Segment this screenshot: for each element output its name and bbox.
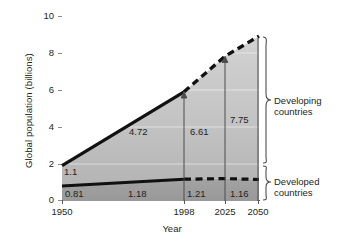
label-developed-2025: 1.21	[187, 188, 206, 199]
x-tick-2025	[225, 200, 226, 204]
label-developing-2050: 7.75	[230, 114, 249, 125]
label-developed-1998: 1.18	[128, 188, 147, 199]
plot-area: 1.1 0.81 4.72 1.18 6.61 1.21 7.75 1.16	[62, 16, 259, 201]
chart-figure: Global population (billions) 10 8 6 4 2 …	[0, 0, 346, 251]
bracket-developed	[263, 166, 271, 200]
y-tick-label-2: 2	[28, 158, 54, 169]
bracket-developing-line2: countries	[274, 106, 313, 117]
y-tick-label-0: 0	[28, 194, 54, 205]
bracket-developing-line1: Developing	[274, 95, 322, 106]
bracket-developed-line2: countries	[274, 187, 313, 198]
y-tick-label-6: 6	[28, 84, 54, 95]
label-developed-2050: 1.16	[230, 188, 249, 199]
bracket-label-developing: Developing countries	[274, 95, 322, 117]
x-tick-1998	[184, 200, 185, 204]
x-tick-label-1998: 1998	[164, 206, 204, 217]
x-tick-label-1950: 1950	[42, 206, 82, 217]
y-tick-label-4: 4	[28, 121, 54, 132]
label-developing-1998: 4.72	[129, 126, 148, 137]
bracket-label-developed: Developed countries	[274, 176, 319, 198]
y-tick-label-10: 10	[28, 10, 54, 21]
label-developing-1950: 1.1	[64, 166, 77, 177]
chart-svg	[62, 16, 259, 201]
x-tick-2050	[258, 200, 259, 204]
bracket-developing	[263, 37, 271, 163]
label-developed-1950: 0.81	[65, 188, 84, 199]
label-developing-2025: 6.61	[190, 126, 209, 137]
y-tick-label-8: 8	[28, 47, 54, 58]
x-tick-1950	[62, 200, 63, 204]
x-axis-title: Year	[142, 223, 202, 234]
bracket-developed-line1: Developed	[274, 176, 319, 187]
